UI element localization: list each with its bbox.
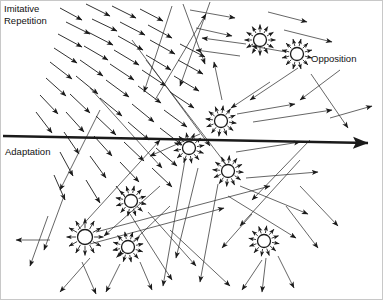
- node-ray: [197, 151, 204, 154]
- field-arrow: [64, 132, 79, 154]
- node-ray: [272, 242, 279, 243]
- node-ray: [69, 242, 77, 247]
- field-arrow: [152, 168, 172, 187]
- long-arrow: [190, 10, 235, 18]
- field-arrow: [58, 34, 82, 47]
- long-arrow: [200, 184, 218, 282]
- field-arrow: [66, 112, 84, 132]
- field-arrow: [54, 48, 77, 63]
- long-arrow: [155, 14, 206, 100]
- field-arrow: [160, 128, 182, 145]
- field-arrow: [110, 64, 134, 80]
- node-ray: [299, 39, 301, 46]
- node-circle: [215, 115, 228, 128]
- node-opposition: [282, 39, 312, 69]
- node-ray: [226, 109, 231, 115]
- long-arrow: [163, 160, 185, 286]
- field-arrow: [46, 78, 66, 96]
- node-ray: [254, 247, 259, 253]
- node-ray: [264, 27, 268, 33]
- node-ray: [267, 249, 270, 256]
- node-ray: [222, 106, 223, 113]
- field-arrow: [92, 19, 117, 31]
- long-arrow: [104, 186, 160, 236]
- long-arrow: [176, 168, 198, 258]
- node-ray: [235, 176, 241, 180]
- node-ray: [116, 252, 121, 257]
- node-ray: [233, 158, 237, 164]
- field-arrow: [100, 98, 122, 116]
- node-circle: [258, 235, 271, 248]
- node-ray: [206, 119, 213, 120]
- field-arrow: [142, 70, 166, 86]
- node-ray: [229, 156, 230, 163]
- long-arrow: [196, 28, 232, 36]
- node-ray: [224, 129, 227, 136]
- long-arrow: [300, 70, 340, 100]
- node-ray: [214, 174, 221, 177]
- long-arrow: [330, 106, 372, 118]
- long-arrow: [284, 30, 332, 42]
- node-circle: [222, 165, 235, 178]
- field-arrow: [50, 62, 72, 79]
- node-ray: [207, 124, 214, 127]
- node-ray: [133, 186, 135, 193]
- field-arrow: [76, 76, 98, 94]
- field-arrow: [66, 22, 90, 34]
- field-arrow: [132, 104, 154, 122]
- field-arrow: [86, 4, 110, 16]
- node-circle: [291, 48, 304, 61]
- node-ray: [76, 221, 81, 229]
- node-ray: [119, 191, 124, 196]
- node-ray: [235, 164, 242, 167]
- imitative-repetition-label-line1: Imitative: [4, 3, 39, 14]
- node-ray: [247, 32, 253, 36]
- field-arrow: [60, 8, 82, 20]
- node-ray: [229, 115, 236, 118]
- node-ray: [90, 245, 95, 253]
- field-arrow: [90, 156, 106, 178]
- node-ray: [128, 209, 130, 216]
- node-ray: [221, 157, 224, 164]
- node-ray: [269, 229, 274, 235]
- node-ray: [194, 154, 199, 160]
- node-ray: [116, 198, 123, 200]
- long-arrow: [202, 38, 246, 44]
- field-arrow: [120, 162, 139, 182]
- node-ray: [126, 186, 128, 193]
- imitative-repetition-arrow-field: [36, 4, 205, 207]
- field-arrow: [174, 76, 199, 91]
- node-circle: [183, 142, 196, 155]
- node-ray: [303, 60, 308, 65]
- field-arrow: [80, 60, 103, 76]
- node-circle: [78, 230, 93, 245]
- node-center-right: [213, 156, 244, 187]
- node-ray: [293, 39, 295, 46]
- long-arrow: [82, 262, 96, 294]
- long-arrow: [60, 110, 100, 190]
- long-arrow: [140, 262, 152, 290]
- node-ray: [76, 245, 81, 253]
- node-ray: [69, 228, 77, 233]
- node-ray: [209, 111, 215, 116]
- long-arrow: [222, 214, 252, 248]
- long-arrow: [242, 260, 262, 290]
- long-arrow: [253, 110, 332, 122]
- long-arrow: [30, 216, 48, 266]
- node-ray: [231, 178, 234, 185]
- long-arrow: [252, 46, 286, 52]
- node-ray: [305, 50, 312, 52]
- long-arrow: [311, 74, 348, 128]
- node-ray: [252, 27, 256, 33]
- long-arrow: [246, 172, 318, 178]
- field-arrow: [88, 32, 113, 45]
- node-ray: [261, 249, 262, 256]
- field-arrow: [118, 36, 143, 50]
- field-arrow: [164, 110, 187, 127]
- node-ray: [213, 170, 220, 171]
- node-ray: [259, 226, 262, 233]
- long-arrow: [250, 68, 298, 100]
- field-arrow: [146, 55, 171, 70]
- field-arrow: [140, 9, 163, 21]
- field-arrow: [36, 112, 52, 133]
